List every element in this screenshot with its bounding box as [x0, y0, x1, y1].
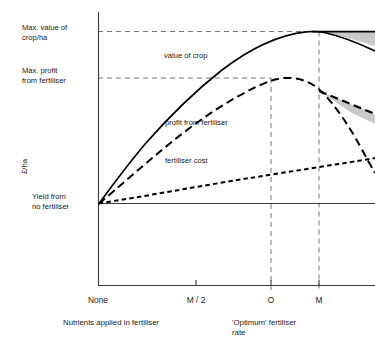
annotation-max-value-of-crop-line1: Max. value of [22, 23, 68, 32]
annotation-max-value-of-crop-line2: crop/ha [22, 33, 48, 42]
chart-svg: £/ha Max. value of crop/ha Max. profit f… [0, 0, 375, 343]
annotation-max-profit-line2: from fertiliser [22, 76, 66, 85]
x-axis-title: Nutrients applied in fertiliser [63, 318, 160, 327]
series-label-fertiliser-cost: fertiliser cost [165, 156, 209, 165]
x-tick-label-o: O [268, 295, 275, 305]
annotation-yield-from-no-fertiliser-line2: no fertiliser [32, 202, 70, 211]
series-fertiliser-cost [99, 158, 375, 204]
y-axis-label: £/ha [20, 158, 29, 174]
annotation-optimum-rate-line1: 'Optimum' fertiliser [232, 318, 296, 327]
annotation-optimum-rate-line2: rate [232, 328, 245, 337]
shaded-region-loss-wedge-profit [319, 91, 375, 124]
x-tick-label-m-half: M / 2 [187, 295, 206, 305]
annotation-max-profit-line1: Max. profit [22, 66, 58, 75]
series-label-profit-from-fertiliser: profit from fertiliser [165, 118, 228, 127]
x-tick-label-m: M [316, 295, 323, 305]
x-tick-label-none: None [88, 295, 108, 305]
series-label-value-of-crop: value of crop [164, 51, 207, 60]
fertiliser-economics-chart: £/ha Max. value of crop/ha Max. profit f… [0, 0, 375, 343]
series-value-of-crop [99, 31, 375, 203]
annotation-yield-from-no-fertiliser-line1: Yield from [32, 192, 66, 201]
